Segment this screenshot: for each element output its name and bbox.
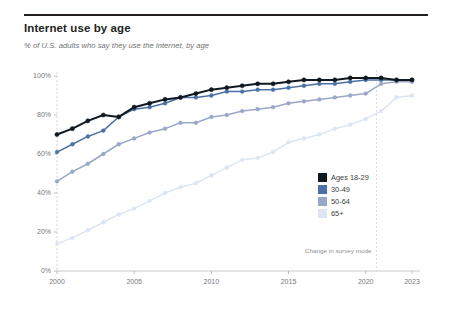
data-point xyxy=(240,158,244,162)
x-axis: 200020052010201520202023 xyxy=(49,271,420,285)
legend-item-label: 50-64 xyxy=(331,197,350,206)
legend-swatch-icon xyxy=(318,197,327,206)
legend-item-label: 65+ xyxy=(331,209,344,218)
data-point xyxy=(71,236,75,240)
data-point xyxy=(379,76,383,80)
data-point xyxy=(287,86,291,90)
data-point xyxy=(364,92,368,96)
data-point xyxy=(395,96,399,100)
survey-mode-annotation: Change in survey mode xyxy=(305,247,371,254)
data-point xyxy=(101,113,105,117)
legend-item[interactable]: 65+ xyxy=(318,208,414,219)
data-point xyxy=(163,191,167,195)
data-point xyxy=(178,95,182,99)
data-point xyxy=(71,170,75,174)
data-point xyxy=(117,142,121,146)
data-point xyxy=(55,150,59,154)
legend-item[interactable]: 50-64 xyxy=(318,196,414,207)
data-point xyxy=(410,78,414,82)
data-point xyxy=(317,98,321,102)
data-point xyxy=(348,94,352,98)
legend-swatch-icon xyxy=(318,173,327,182)
series-50-64 xyxy=(55,80,414,183)
data-point xyxy=(379,82,383,86)
x-tick-label: 2005 xyxy=(126,278,142,285)
data-point xyxy=(317,82,321,86)
data-point xyxy=(117,115,121,119)
x-tick-label: 2020 xyxy=(358,278,374,285)
data-point xyxy=(333,96,337,100)
data-point xyxy=(348,76,352,80)
data-point xyxy=(132,137,136,141)
data-point xyxy=(194,91,198,95)
x-tick-label: 2000 xyxy=(49,278,65,285)
data-point xyxy=(317,133,321,137)
data-point xyxy=(302,137,306,141)
y-tick-label: 80% xyxy=(37,111,51,118)
data-point xyxy=(287,101,291,105)
data-point xyxy=(348,80,352,84)
data-point xyxy=(410,94,414,98)
data-point xyxy=(302,78,306,82)
data-point xyxy=(70,127,74,131)
data-point xyxy=(86,162,90,166)
data-point xyxy=(287,140,291,144)
line-chart-svg: 100%80%60%40%20%0% 200020052010201520202… xyxy=(0,0,450,318)
legend-item-label: 30-49 xyxy=(331,185,350,194)
data-point xyxy=(179,185,183,189)
data-point xyxy=(163,101,167,105)
data-point xyxy=(256,107,260,111)
data-point xyxy=(55,179,59,183)
legend-swatch-icon xyxy=(318,185,327,194)
chart-figure: Internet use by age % of U.S. adults who… xyxy=(0,0,450,318)
data-point xyxy=(379,109,383,113)
legend-item[interactable]: Ages 18-29 xyxy=(318,172,414,183)
data-point xyxy=(225,166,229,170)
x-tick-label: 2023 xyxy=(404,278,420,285)
data-point xyxy=(317,78,321,82)
data-point xyxy=(194,181,198,185)
y-tick-label: 100% xyxy=(33,72,51,79)
data-point xyxy=(163,127,167,131)
y-tick-label: 60% xyxy=(37,150,51,157)
data-point xyxy=(333,78,337,82)
data-point xyxy=(394,78,398,82)
data-point xyxy=(132,105,136,109)
data-point xyxy=(101,152,105,156)
data-point xyxy=(240,109,244,113)
y-tick-label: 40% xyxy=(37,189,51,196)
data-point xyxy=(240,84,244,88)
data-point xyxy=(86,119,90,123)
chart-legend: Ages 18-2930-4950-6465+ xyxy=(318,172,414,220)
series-ages-18-29 xyxy=(55,76,414,137)
data-point xyxy=(286,80,290,84)
data-point xyxy=(302,84,306,88)
data-point xyxy=(209,115,213,119)
series-layer xyxy=(55,76,414,246)
data-point xyxy=(348,123,352,127)
data-point xyxy=(209,174,213,178)
data-point xyxy=(101,129,105,133)
data-point xyxy=(333,127,337,131)
data-point xyxy=(55,242,59,246)
data-point xyxy=(256,88,260,92)
data-point xyxy=(364,117,368,121)
y-axis: 100%80%60%40%20%0% xyxy=(33,72,57,274)
data-point xyxy=(148,101,152,105)
data-point xyxy=(117,213,121,217)
legend-item-label: Ages 18-29 xyxy=(331,173,369,182)
data-point xyxy=(55,132,59,136)
data-point xyxy=(240,90,244,94)
data-point xyxy=(364,76,368,80)
legend-item[interactable]: 30-49 xyxy=(318,184,414,195)
plot-area: 100%80%60%40%20%0% 200020052010201520202… xyxy=(0,0,450,318)
data-point xyxy=(271,150,275,154)
x-tick-label: 2015 xyxy=(281,278,297,285)
data-point xyxy=(256,156,260,160)
data-point xyxy=(71,142,75,146)
legend-swatch-icon xyxy=(318,209,327,218)
data-point xyxy=(194,121,198,125)
data-point xyxy=(179,121,183,125)
data-point xyxy=(256,82,260,86)
data-point xyxy=(271,88,275,92)
